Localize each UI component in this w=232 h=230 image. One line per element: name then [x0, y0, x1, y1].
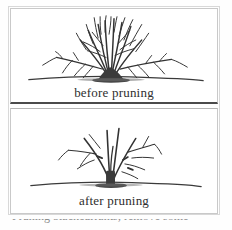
- panel-before-pruning: before pruning: [10, 8, 218, 104]
- illustration-page: before pruning: [0, 0, 232, 230]
- cropped-body-text-line: Pruning blackcurrants; remove some: [12, 219, 220, 222]
- caption-before-pruning: before pruning: [11, 85, 217, 101]
- caption-after-pruning: after pruning: [11, 193, 217, 209]
- panel-after-pruning: after pruning: [10, 108, 218, 214]
- cropped-body-text: Pruning blackcurrants; remove some: [12, 219, 220, 230]
